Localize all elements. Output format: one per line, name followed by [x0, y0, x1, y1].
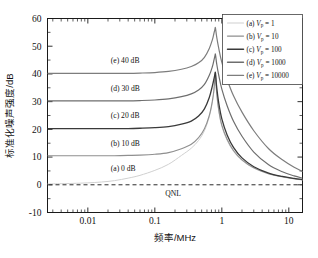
x-tick-label: 10 — [284, 216, 294, 226]
annotation-3: (b) 10 dB — [111, 139, 140, 148]
x-tick-label: 0.1 — [149, 216, 161, 226]
qnl-reference-line: QNL — [49, 185, 302, 198]
y-tick-label: 60 — [32, 14, 42, 24]
legend-entry-e[interactable]: (e) Vp = 10000 — [247, 72, 290, 81]
legend-entry-b[interactable]: (b) Vp = 10 — [247, 33, 279, 42]
legend-label-b: (b) Vp = 10 — [247, 33, 279, 42]
annotation-0: (e) 40 dB — [111, 56, 140, 65]
y-tick-label: 50 — [32, 42, 42, 52]
curve-c — [48, 72, 303, 179]
noise-intensity-chart: -1001020304050600.010.1110 QNL (e) 40 dB… — [0, 0, 318, 258]
legend-label-e: (e) Vp = 10000 — [247, 72, 290, 81]
y-tick-label: 0 — [37, 180, 42, 190]
y-tick-label: 30 — [32, 97, 42, 107]
figure-container: -1001020304050600.010.1110 QNL (e) 40 dB… — [0, 0, 318, 258]
x-tick-label: 0.01 — [80, 216, 97, 226]
curve-b — [48, 73, 303, 180]
y-axis-title: 标准化噪声强度/dB — [4, 73, 15, 157]
legend-label-c: (c) Vp = 100 — [247, 46, 283, 55]
legend: (a) Vp = 1(b) Vp = 10(c) Vp = 100(d) Vp … — [223, 15, 303, 85]
legend-label-d: (d) Vp = 1000 — [247, 59, 287, 68]
y-tick-label: 40 — [32, 69, 42, 79]
y-tick-label: -10 — [29, 208, 42, 218]
annotation-4: (a) 0 dB — [111, 164, 136, 173]
qnl-label: QNL — [165, 189, 181, 198]
x-tick-label: 1 — [219, 216, 224, 226]
legend-entry-c[interactable]: (c) Vp = 100 — [247, 46, 283, 55]
y-tick-label: 20 — [32, 125, 42, 135]
annotation-1: (d) 30 dB — [111, 84, 140, 93]
y-tick-label: 10 — [32, 152, 42, 162]
legend-entry-d[interactable]: (d) Vp = 1000 — [247, 59, 287, 68]
annotation-2: (c) 20 dB — [111, 111, 140, 120]
x-axis-title: 频率/MHz — [154, 232, 196, 243]
